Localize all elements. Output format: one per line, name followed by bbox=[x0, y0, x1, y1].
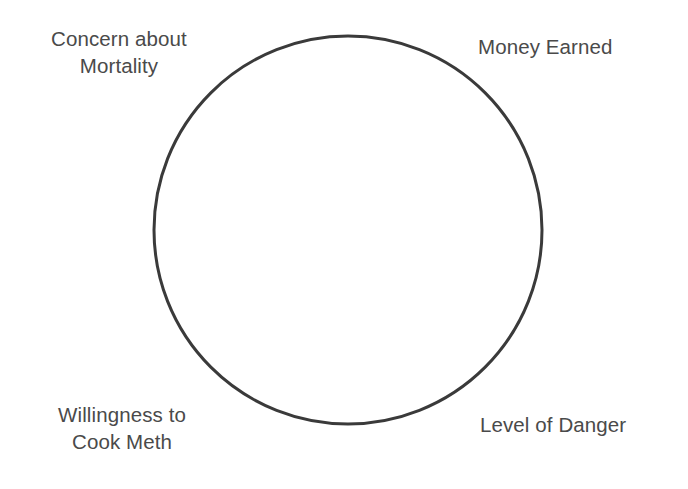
label-level-of-danger: Level of Danger bbox=[480, 411, 680, 438]
label-money-earned: Money Earned bbox=[478, 33, 678, 60]
main-circle bbox=[154, 36, 542, 424]
diagram-canvas: Concern about Mortality Money Earned Wil… bbox=[0, 0, 688, 489]
label-willingness-to-cook-meth: Willingness to Cook Meth bbox=[22, 401, 222, 455]
label-concern-about-mortality: Concern about Mortality bbox=[14, 25, 224, 79]
